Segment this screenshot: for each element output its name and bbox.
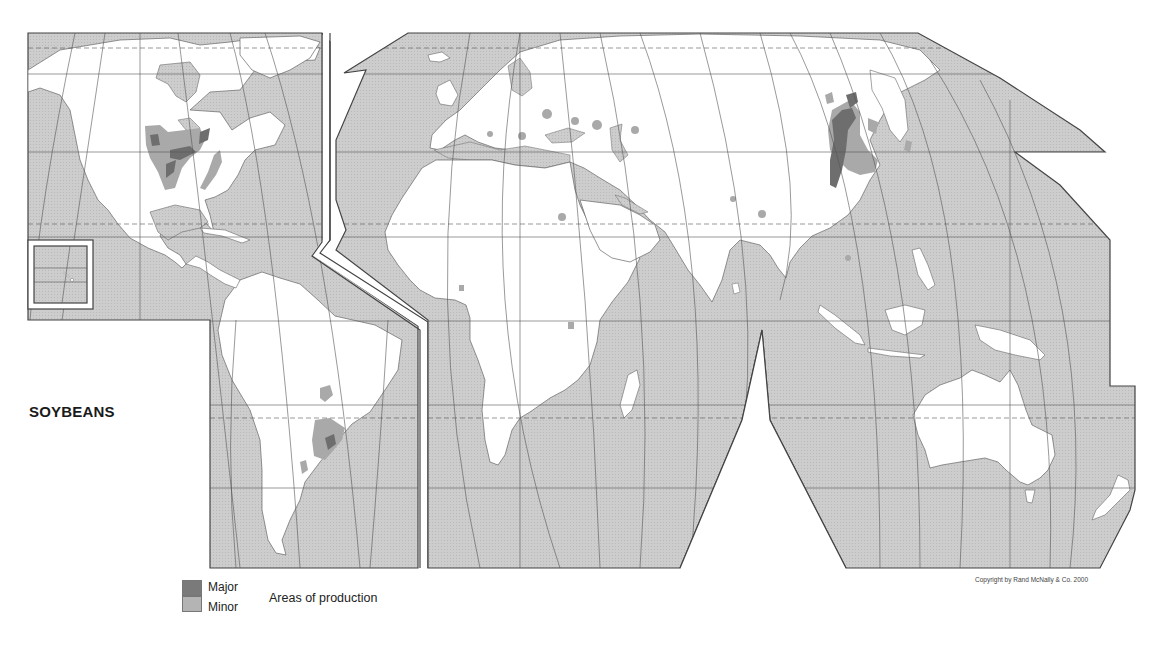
legend: Major Minor Areas of production	[182, 580, 402, 630]
legend-major-label: Major	[208, 580, 238, 594]
world-map	[0, 0, 1165, 645]
ukraine-minor	[542, 109, 552, 119]
russia-minor	[571, 117, 579, 125]
copyright-notice: Copyright by Rand McNally & Co. 2000	[975, 576, 1088, 583]
legend-minor-label: Minor	[208, 600, 238, 614]
egypt-minor	[558, 213, 566, 221]
danube-minor	[518, 132, 526, 140]
minor-swatch	[182, 596, 202, 612]
uganda-minor	[568, 322, 574, 329]
nigeria-minor	[459, 285, 464, 291]
india-minor-1	[730, 196, 736, 202]
india-minor-2	[758, 210, 766, 218]
hawaii-inset	[28, 240, 93, 309]
map-title: SOYBEANS	[29, 403, 115, 420]
major-swatch	[182, 580, 202, 596]
thailand-minor	[845, 255, 851, 261]
legend-caption: Areas of production	[269, 591, 377, 605]
caucasus-minor	[592, 120, 602, 130]
italy-minor	[487, 131, 493, 137]
iran-minor	[631, 126, 639, 134]
eastern-hemisphere-panel	[336, 33, 1135, 568]
